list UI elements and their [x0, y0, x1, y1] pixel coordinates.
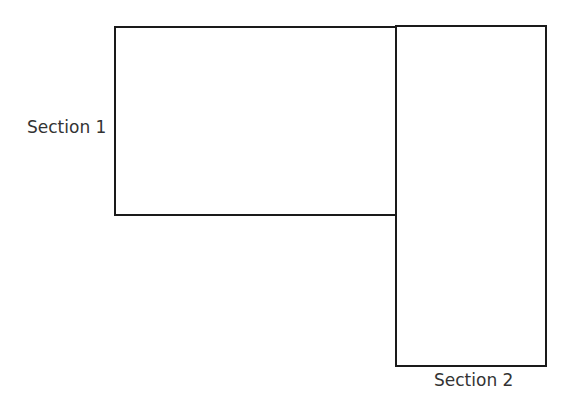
section-1-box	[114, 26, 397, 216]
section-1-label: Section 1	[27, 119, 106, 136]
section-2-box	[395, 25, 547, 367]
section-2-label: Section 2	[434, 372, 513, 389]
